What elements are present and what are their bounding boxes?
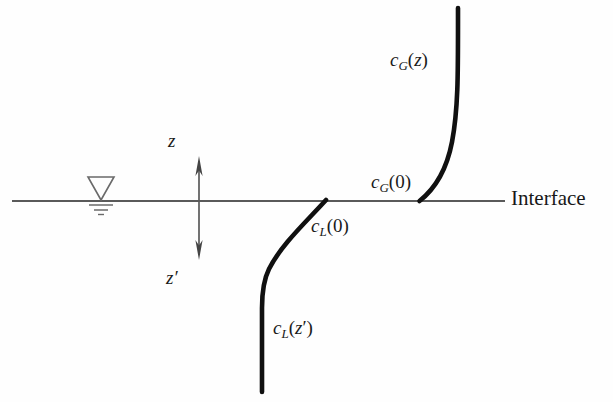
liquid-interface-subscript: L: [319, 224, 326, 239]
axis-down-prime: ′: [173, 267, 177, 288]
axis-down-label: z′: [166, 268, 178, 287]
liquid-interface-argument: 0: [333, 215, 343, 236]
gas-profile-close-paren: ): [422, 49, 428, 70]
liquid-interface-label: cL(0): [311, 216, 349, 238]
gas-profile-argument: z: [414, 49, 421, 70]
z-axis-group: [195, 156, 202, 260]
liquid-profile-close-paren: ): [307, 317, 313, 338]
gas-profile-subscript: G: [398, 58, 407, 73]
axis-up-label: z: [168, 131, 175, 150]
gas-interface-subscript: G: [379, 180, 388, 195]
interface-label: Interface: [511, 188, 586, 209]
liquid-interface-close-paren: ): [343, 215, 349, 236]
gas-interface-label: cG(0): [371, 172, 411, 194]
liquid-profile-label: cL(z′): [273, 318, 313, 340]
water-surface-triangle-icon: [88, 177, 114, 215]
liquid-profile-subscript: L: [281, 326, 288, 341]
figure-root: cG(z) cG(0) cL(0) cL(z′) z z′ Interface: [0, 0, 613, 402]
gas-interface-close-paren: ): [405, 171, 411, 192]
gas-interface-argument: 0: [395, 171, 405, 192]
gas-profile-label: cG(z): [390, 50, 428, 72]
gas-concentration-curve: [420, 8, 459, 201]
